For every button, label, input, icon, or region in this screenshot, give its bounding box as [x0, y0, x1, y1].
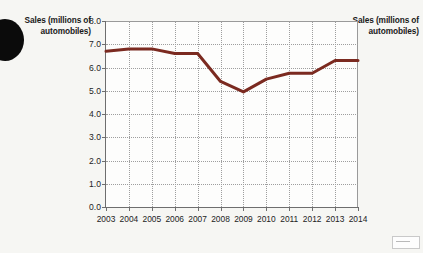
x-tick-label: 2007 — [188, 214, 207, 224]
y-tick-label: 4.0 — [89, 109, 101, 119]
x-tick-label: 2008 — [211, 214, 230, 224]
y-tick-label: 8.0 — [89, 16, 101, 26]
left-axis-caption: Sales (millions of automobiles) — [8, 15, 91, 36]
series-line — [106, 49, 358, 92]
corner-box-artifact — [392, 236, 420, 249]
y-tick-label: 3.0 — [89, 132, 101, 142]
x-tick-mark — [358, 207, 359, 211]
x-tick-mark — [243, 207, 244, 211]
x-tick-label: 2004 — [120, 214, 139, 224]
x-tick-label: 2006 — [165, 214, 184, 224]
plot-area: 0.01.02.03.04.05.06.07.08.0 200320042005… — [105, 21, 358, 208]
x-tick-mark — [312, 207, 313, 211]
x-tick-label: 2009 — [234, 214, 253, 224]
x-tick-label: 2003 — [97, 214, 116, 224]
x-tick-mark — [106, 207, 107, 211]
y-tick-label: 1.0 — [89, 179, 101, 189]
y-tick-label: 6.0 — [89, 63, 101, 73]
y-tick-label: 0.0 — [89, 202, 101, 212]
x-tick-label: 2013 — [326, 214, 345, 224]
y-tick-label: 5.0 — [89, 86, 101, 96]
y-tick-label: 7.0 — [89, 39, 101, 49]
x-tick-label: 2014 — [349, 214, 368, 224]
x-tick-label: 2010 — [257, 214, 276, 224]
x-tick-mark — [175, 207, 176, 211]
y-tick-label: 2.0 — [89, 156, 101, 166]
x-tick-mark — [221, 207, 222, 211]
x-tick-mark — [335, 207, 336, 211]
x-tick-label: 2011 — [280, 214, 298, 224]
x-tick-mark — [198, 207, 199, 211]
x-tick-label: 2012 — [303, 214, 322, 224]
x-tick-mark — [266, 207, 267, 211]
x-tick-mark — [129, 207, 130, 211]
x-tick-label: 2005 — [142, 214, 161, 224]
chart-figure: Sales (millions of automobiles) Sales (m… — [0, 0, 423, 253]
x-tick-mark — [152, 207, 153, 211]
sales-line-series — [106, 21, 358, 207]
x-tick-mark — [289, 207, 290, 211]
